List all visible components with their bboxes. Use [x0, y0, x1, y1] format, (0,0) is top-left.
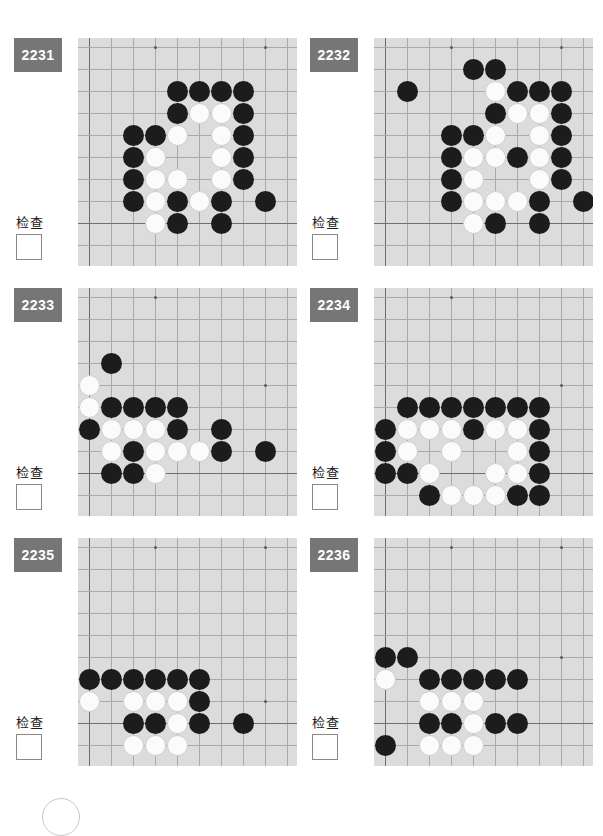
white-stone[interactable]: [529, 169, 550, 190]
black-stone[interactable]: [167, 419, 188, 440]
check-checkbox-5[interactable]: [312, 734, 338, 760]
white-stone[interactable]: [507, 191, 528, 212]
white-stone[interactable]: [167, 169, 188, 190]
white-stone[interactable]: [375, 669, 396, 690]
go-board-3[interactable]: [374, 288, 593, 516]
check-checkbox-1[interactable]: [312, 234, 338, 260]
black-stone[interactable]: [123, 191, 144, 212]
white-stone[interactable]: [145, 735, 166, 756]
black-stone[interactable]: [167, 669, 188, 690]
white-stone[interactable]: [189, 191, 210, 212]
black-stone[interactable]: [123, 125, 144, 146]
black-stone[interactable]: [397, 647, 418, 668]
black-stone[interactable]: [463, 397, 484, 418]
white-stone[interactable]: [211, 169, 232, 190]
white-stone[interactable]: [463, 713, 484, 734]
black-stone[interactable]: [123, 397, 144, 418]
check-checkbox-0[interactable]: [16, 234, 42, 260]
black-stone[interactable]: [79, 669, 100, 690]
white-stone[interactable]: [485, 485, 506, 506]
go-board-1[interactable]: [374, 38, 593, 266]
white-stone[interactable]: [463, 485, 484, 506]
black-stone[interactable]: [529, 81, 550, 102]
black-stone[interactable]: [375, 647, 396, 668]
black-stone[interactable]: [211, 191, 232, 212]
black-stone[interactable]: [441, 397, 462, 418]
white-stone[interactable]: [167, 125, 188, 146]
black-stone[interactable]: [397, 397, 418, 418]
white-stone[interactable]: [167, 691, 188, 712]
black-stone[interactable]: [233, 103, 254, 124]
black-stone[interactable]: [397, 463, 418, 484]
black-stone[interactable]: [211, 213, 232, 234]
black-stone[interactable]: [255, 191, 276, 212]
black-stone[interactable]: [485, 713, 506, 734]
black-stone[interactable]: [485, 397, 506, 418]
black-stone[interactable]: [507, 81, 528, 102]
black-stone[interactable]: [573, 191, 594, 212]
white-stone[interactable]: [463, 213, 484, 234]
white-stone[interactable]: [419, 735, 440, 756]
white-stone[interactable]: [189, 103, 210, 124]
black-stone[interactable]: [145, 713, 166, 734]
black-stone[interactable]: [551, 169, 572, 190]
black-stone[interactable]: [375, 463, 396, 484]
black-stone[interactable]: [419, 485, 440, 506]
black-stone[interactable]: [529, 485, 550, 506]
white-stone[interactable]: [167, 713, 188, 734]
black-stone[interactable]: [167, 397, 188, 418]
white-stone[interactable]: [463, 191, 484, 212]
white-stone[interactable]: [123, 691, 144, 712]
black-stone[interactable]: [507, 669, 528, 690]
white-stone[interactable]: [441, 735, 462, 756]
black-stone[interactable]: [529, 441, 550, 462]
white-stone[interactable]: [463, 691, 484, 712]
white-stone[interactable]: [145, 419, 166, 440]
white-stone[interactable]: [441, 691, 462, 712]
black-stone[interactable]: [167, 191, 188, 212]
black-stone[interactable]: [551, 125, 572, 146]
white-stone[interactable]: [211, 103, 232, 124]
white-stone[interactable]: [485, 147, 506, 168]
black-stone[interactable]: [167, 81, 188, 102]
black-stone[interactable]: [507, 485, 528, 506]
black-stone[interactable]: [551, 103, 572, 124]
black-stone[interactable]: [485, 103, 506, 124]
white-stone[interactable]: [485, 419, 506, 440]
black-stone[interactable]: [529, 191, 550, 212]
black-stone[interactable]: [463, 669, 484, 690]
black-stone[interactable]: [101, 397, 122, 418]
white-stone[interactable]: [189, 441, 210, 462]
go-board-2[interactable]: [78, 288, 297, 516]
white-stone[interactable]: [211, 147, 232, 168]
white-stone[interactable]: [463, 169, 484, 190]
black-stone[interactable]: [507, 147, 528, 168]
black-stone[interactable]: [441, 125, 462, 146]
white-stone[interactable]: [167, 441, 188, 462]
white-stone[interactable]: [507, 441, 528, 462]
black-stone[interactable]: [189, 713, 210, 734]
white-stone[interactable]: [441, 419, 462, 440]
black-stone[interactable]: [507, 713, 528, 734]
black-stone[interactable]: [145, 125, 166, 146]
black-stone[interactable]: [441, 169, 462, 190]
white-stone[interactable]: [529, 125, 550, 146]
white-stone[interactable]: [79, 397, 100, 418]
check-checkbox-3[interactable]: [312, 484, 338, 510]
black-stone[interactable]: [101, 669, 122, 690]
white-stone[interactable]: [529, 103, 550, 124]
black-stone[interactable]: [375, 419, 396, 440]
black-stone[interactable]: [375, 441, 396, 462]
white-stone[interactable]: [145, 691, 166, 712]
white-stone[interactable]: [419, 463, 440, 484]
white-stone[interactable]: [485, 125, 506, 146]
black-stone[interactable]: [233, 169, 254, 190]
black-stone[interactable]: [167, 103, 188, 124]
black-stone[interactable]: [101, 353, 122, 374]
black-stone[interactable]: [255, 441, 276, 462]
go-board-0[interactable]: [78, 38, 297, 266]
black-stone[interactable]: [529, 463, 550, 484]
black-stone[interactable]: [463, 125, 484, 146]
white-stone[interactable]: [529, 147, 550, 168]
black-stone[interactable]: [463, 419, 484, 440]
